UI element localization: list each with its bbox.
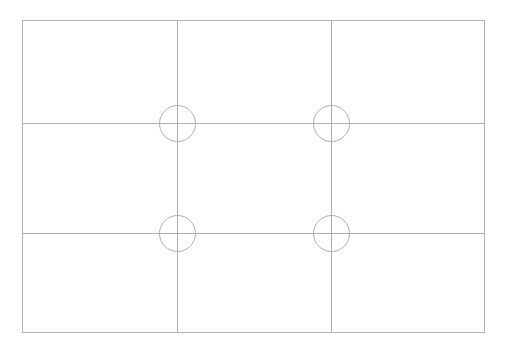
composition-grid-svg	[0, 0, 508, 353]
marker-top-left-intersection	[152, 98, 204, 150]
marker-bottom-right-intersection	[306, 208, 358, 260]
marker-bottom-left-intersection	[152, 208, 204, 260]
intersection-markers	[152, 98, 358, 260]
diagram-canvas	[0, 0, 508, 353]
outer-frame	[23, 21, 485, 333]
horizontal-grid-lines	[22, 124, 485, 234]
vertical-grid-lines	[178, 20, 332, 333]
frame-rect	[23, 21, 485, 333]
marker-top-right-intersection	[306, 98, 358, 150]
